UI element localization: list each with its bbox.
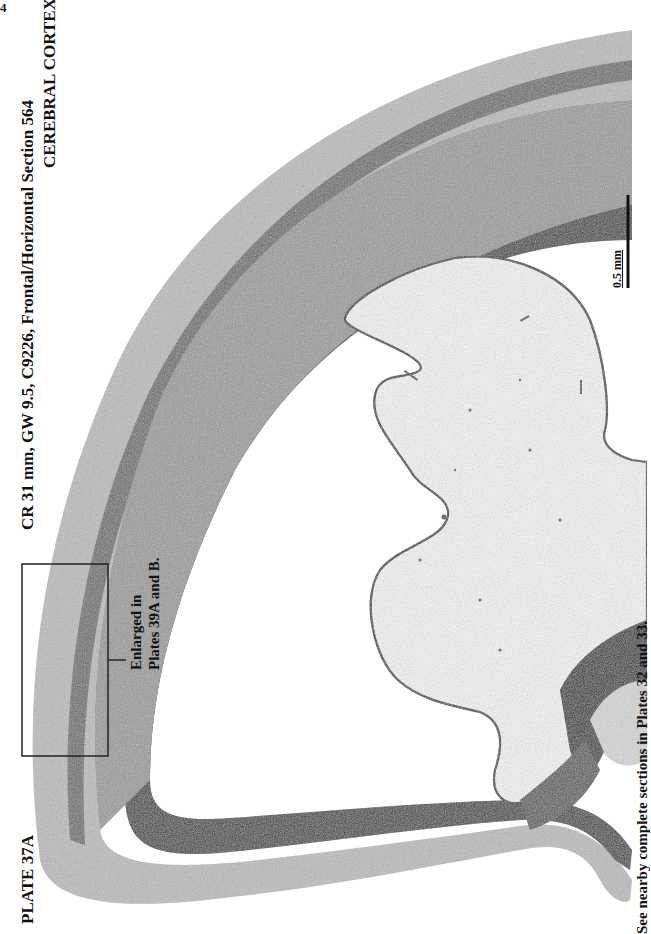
footer-note: See nearby complete sections in Plates 3… [634,621,651,934]
ganglionic-eminence [345,257,647,830]
plate-subtitle: CEREBRAL CORTEX [40,0,60,168]
callout-text-line-1: Enlarged in [128,595,145,670]
plate-title: CR 31 mm, GW 9.5, C9226, Frontal/Horizon… [18,100,38,530]
scale-bar-label: 0.5 mm [610,250,625,288]
callout-text-line-2: Plates 39A and B. [146,557,163,670]
page-number: 4 [0,0,7,16]
plate-label: PLATE 37A [18,835,38,924]
